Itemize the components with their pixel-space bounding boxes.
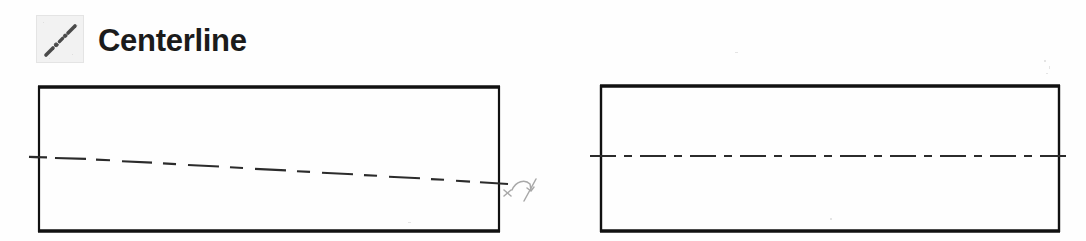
scan-speckle bbox=[408, 52, 1050, 223]
left-rectangle bbox=[38, 86, 500, 232]
left-centerline bbox=[30, 157, 508, 184]
left-view bbox=[29, 86, 536, 232]
centerline-swatch bbox=[36, 15, 84, 63]
centerline-dash-dot-icon bbox=[37, 16, 85, 64]
legend-row: Centerline bbox=[36, 14, 247, 64]
figure-root: Centerline bbox=[0, 0, 1086, 241]
legend-label: Centerline bbox=[98, 25, 247, 56]
right-view bbox=[590, 85, 1070, 232]
handwritten-correction-mark bbox=[504, 179, 536, 201]
right-rectangle bbox=[600, 85, 1060, 232]
